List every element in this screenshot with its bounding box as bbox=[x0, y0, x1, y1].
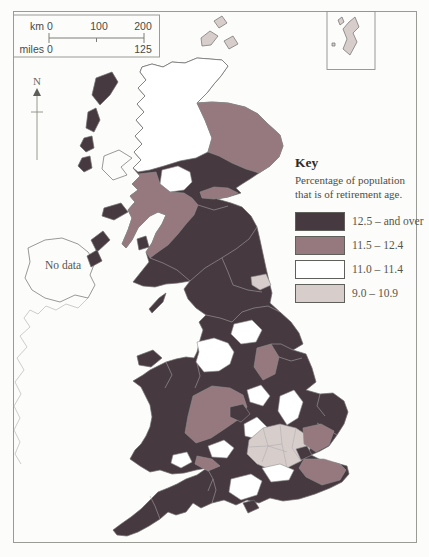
legend-item: 11.5 – 12.4 bbox=[295, 236, 420, 254]
orkney-mainland bbox=[201, 31, 218, 46]
north-arrow: N bbox=[31, 75, 43, 160]
legend-subtitle: Percentage of population that is of reti… bbox=[295, 174, 420, 201]
island-arran bbox=[137, 236, 149, 250]
scale-km-100: 100 bbox=[90, 20, 108, 32]
scale-km-0: 0 bbox=[47, 20, 53, 32]
north-arrow-head bbox=[33, 88, 41, 96]
legend-label: 9.0 – 10.9 bbox=[352, 287, 398, 299]
orkney-east-isle bbox=[224, 36, 238, 49]
scale-bar: km 0 100 200 miles 0 125 bbox=[14, 15, 160, 57]
legend: Key Percentage of population that is of … bbox=[295, 155, 420, 308]
island-uist-north bbox=[86, 108, 100, 132]
scale-miles-125: 125 bbox=[134, 43, 152, 55]
scale-km-200: 200 bbox=[134, 20, 152, 32]
shetland-inset bbox=[327, 12, 375, 70]
legend-swatch-11-5-12-4 bbox=[295, 236, 345, 255]
legend-label: 12.5 – and over bbox=[352, 215, 424, 227]
orkney-north-isle bbox=[214, 16, 227, 28]
legend-item: 11.0 – 11.4 bbox=[295, 260, 420, 278]
legend-swatch-9-0-10-9 bbox=[295, 284, 345, 303]
island-lewis-harris bbox=[92, 72, 118, 105]
island-uist-south bbox=[80, 136, 94, 152]
legend-subtitle-line2: that is of retirement age. bbox=[295, 188, 402, 200]
map-page: No data bbox=[0, 0, 429, 557]
legend-subtitle-line1: Percentage of population bbox=[295, 174, 405, 186]
legend-swatch-12-5-and-over bbox=[295, 212, 345, 231]
ireland-coastline bbox=[14, 298, 88, 464]
island-anglesey bbox=[137, 350, 162, 367]
island-group-orkney bbox=[201, 16, 238, 49]
north-arrow-label: N bbox=[33, 75, 41, 87]
scale-miles-0: 0 bbox=[47, 43, 53, 55]
island-mull bbox=[102, 203, 128, 220]
legend-item: 12.5 – and over bbox=[295, 212, 420, 230]
legend-label: 11.5 – 12.4 bbox=[352, 239, 403, 251]
island-skye bbox=[102, 150, 132, 180]
legend-label: 11.0 – 11.4 bbox=[352, 263, 403, 275]
no-data-label: No data bbox=[45, 259, 81, 271]
scale-km-label: km bbox=[30, 20, 44, 32]
island-islay bbox=[91, 231, 110, 252]
legend-item: 9.0 – 10.9 bbox=[295, 284, 420, 302]
legend-title: Key bbox=[295, 155, 420, 171]
island-foula bbox=[332, 43, 335, 46]
island-barra bbox=[78, 156, 92, 172]
legend-swatch-11-0-11-4 bbox=[295, 260, 345, 279]
island-isle-of-man bbox=[149, 293, 166, 313]
scale-miles-label: miles bbox=[19, 43, 44, 55]
